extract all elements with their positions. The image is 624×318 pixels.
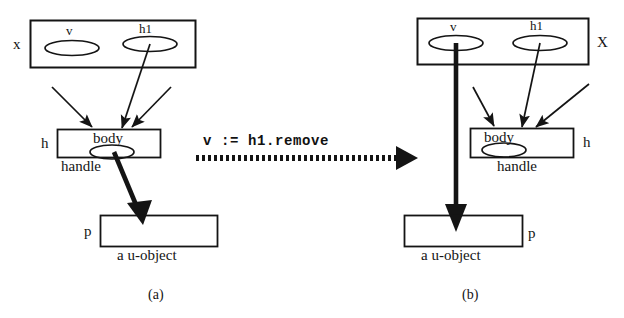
panel-a-object-box [101, 216, 218, 247]
panel-b-handle-caption: handle [497, 159, 537, 174]
panel-b-object-caption: a u-object [421, 248, 481, 263]
panel-b-handle-box-label: h [583, 135, 591, 150]
panel-b-slot-h1-label: h1 [530, 19, 543, 32]
panel-b-outer-box-label: X [597, 35, 608, 50]
panel-a-h1-to-handle-arrow [122, 44, 150, 128]
panel-a-handle-box-label: h [41, 136, 49, 151]
panel-b-handle-body-ellipse [482, 143, 526, 157]
panel-b-outer-box [418, 19, 589, 65]
panel-b-h1-to-handle-arrow [522, 43, 540, 127]
panel-b-handle-body-label: body [484, 130, 514, 145]
panel-b-object-box-label: p [528, 226, 536, 241]
panel-b-object-box [405, 216, 523, 247]
panel-a-slot-h1-label: h1 [139, 22, 152, 35]
panel-a-caption: (a) [148, 288, 164, 302]
panel-b-ref-arrow-right [536, 84, 589, 127]
panel-a-ref-arrow-right [132, 87, 171, 127]
panel-a-outer-box-label: x [13, 37, 21, 52]
panel-a-object-caption: a u-object [117, 248, 177, 263]
panel-a-body-to-object-arrowhead [127, 200, 152, 225]
panel-b-caption: (b) [462, 288, 478, 302]
panel-b-slot-v-label: v [450, 20, 457, 33]
transition-arrowhead [396, 146, 418, 170]
panel-a-ref-arrow-left [52, 87, 92, 127]
panel-a-outer-box [31, 21, 196, 68]
panel-b-ref-arrow-left [473, 87, 494, 126]
panel-a-handle-caption: handle [61, 159, 101, 174]
panel-a-object-box-label: p [84, 224, 92, 239]
panel-a-handle-body-label: body [93, 131, 123, 146]
panel-a-slot-v-label: v [66, 24, 73, 37]
transition-label: v := h1.remove [203, 134, 329, 148]
panel-b-v-to-object-arrowhead [445, 204, 467, 232]
figure-root: x v h1 h body handle p a u-object (a) v … [0, 0, 624, 318]
panel-a-slot-v-ellipse [45, 41, 99, 56]
